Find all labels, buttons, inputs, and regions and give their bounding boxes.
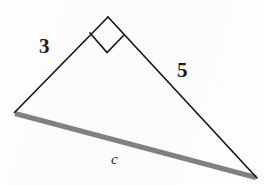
- leg-b-label: 5: [177, 60, 188, 81]
- hypotenuse-label: c: [111, 152, 118, 167]
- right-angle-marker-icon: [90, 33, 124, 53]
- leg-b-line: [108, 17, 257, 178]
- leg-a-line: [15, 17, 109, 113]
- hypotenuse-line: [15, 114, 256, 178]
- right-triangle-figure: 3 5 c: [0, 0, 265, 185]
- leg-a-label: 3: [39, 36, 50, 57]
- triangle-drawing: [0, 0, 265, 185]
